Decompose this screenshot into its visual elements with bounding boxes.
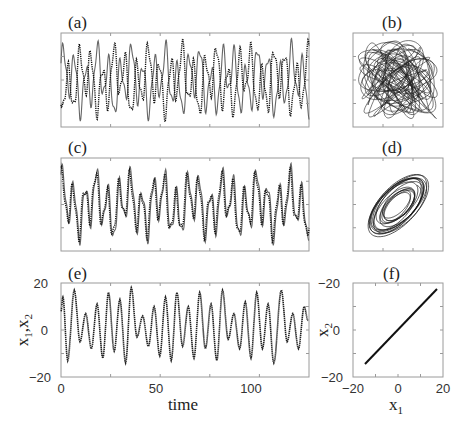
e-xlabel: time	[168, 395, 198, 414]
panel-label-f: (f)	[383, 264, 400, 283]
svg-text:x2: x2	[313, 323, 334, 337]
panel-c-series-x2	[61, 167, 309, 243]
panel-d	[353, 158, 443, 251]
e-ylabel: x1,x2	[13, 314, 34, 346]
panel-c	[61, 158, 309, 251]
e-ytick-20: 20	[34, 276, 48, 291]
panel-a	[61, 33, 309, 127]
e-xtick-100: 100	[240, 381, 262, 396]
f-ytick-top: −20	[318, 276, 340, 291]
e-xtick-0: 0	[57, 381, 64, 396]
f-xtick-neg20: −20	[342, 381, 364, 396]
panel-f-sync-line	[365, 289, 437, 364]
panel-e: 20 0 −20 0 50 100 time x1,x2	[13, 276, 309, 414]
svg-text:x1: x1	[389, 395, 403, 416]
panel-d-frame	[353, 158, 443, 251]
svg-text:x1,x2: x1,x2	[13, 314, 34, 346]
panel-label-b: (b)	[382, 13, 402, 32]
f-xtick-0: 0	[394, 381, 401, 396]
figure: (a) (b) (c) (d) (e) (f) 20 0 −20 0 50	[0, 0, 461, 423]
panel-e-series	[61, 288, 308, 363]
panel-f: −20 0 −20 −20 0 20 x1 x2	[313, 276, 450, 416]
panel-label-e: (e)	[68, 264, 87, 283]
e-xtick-50: 50	[149, 381, 163, 396]
f-xlabel: x1	[389, 395, 403, 416]
f-xtick-20: 20	[436, 381, 450, 396]
panel-label-d: (d)	[382, 138, 402, 157]
e-ytick-neg20: −20	[29, 370, 51, 385]
panel-d-ticks	[353, 158, 443, 251]
panel-label-a: (a)	[68, 13, 87, 32]
panel-b	[353, 33, 443, 127]
panel-d-phase-band	[368, 175, 429, 237]
panel-b-phase-cloud	[358, 41, 437, 119]
f-ytick-bottom: −20	[321, 370, 343, 385]
panel-label-c: (c)	[68, 138, 87, 157]
e-ytick-0: 0	[41, 323, 48, 338]
f-ylabel: x2	[313, 323, 334, 337]
